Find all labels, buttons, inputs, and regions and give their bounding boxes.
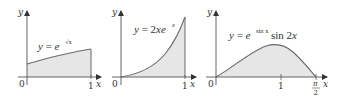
x-tick-label-1: 1 — [182, 81, 188, 91]
shaded-area — [216, 45, 316, 77]
chart-panel-2xex: y x 0 1 y = 2xe x — [111, 7, 196, 91]
figure-canvas: y x 0 1 y = e √x y x 0 1 y = 2xe x y x 0 — [0, 0, 344, 98]
shaded-area — [27, 49, 91, 77]
equation-suffix: sin 2x — [271, 29, 297, 41]
origin-label: 0 — [19, 79, 25, 89]
x-axis-label: x — [96, 79, 101, 89]
y-axis-label: y — [17, 7, 24, 17]
equation-exponent: x — [171, 21, 175, 28]
x-axis-label: x — [323, 79, 328, 89]
x-axis-label: x — [190, 79, 195, 89]
y-axis-label: y — [206, 7, 213, 17]
x-tick-label-1: 1 — [88, 81, 94, 91]
chart-panel-exp-sqrt: y x 0 1 y = e √x — [17, 7, 101, 91]
equation-exponent: sin x — [256, 27, 269, 34]
origin-label: 0 — [112, 79, 118, 89]
y-axis-label: y — [111, 7, 118, 17]
equation-exponent: √x — [65, 38, 73, 45]
chart-panel-esinx-sin2x: y x 0 1 π 2 y = e sin x sin 2x — [206, 7, 328, 97]
x-tick-label-two: 2 — [314, 89, 318, 97]
equation-label: y = 2xe — [133, 23, 166, 35]
origin-label: 0 — [208, 79, 214, 89]
equation-label: y = e — [37, 40, 60, 52]
equation-label: y = e — [228, 29, 251, 41]
x-tick-label-pi: π — [312, 80, 318, 88]
x-tick-label-1: 1 — [278, 81, 284, 91]
